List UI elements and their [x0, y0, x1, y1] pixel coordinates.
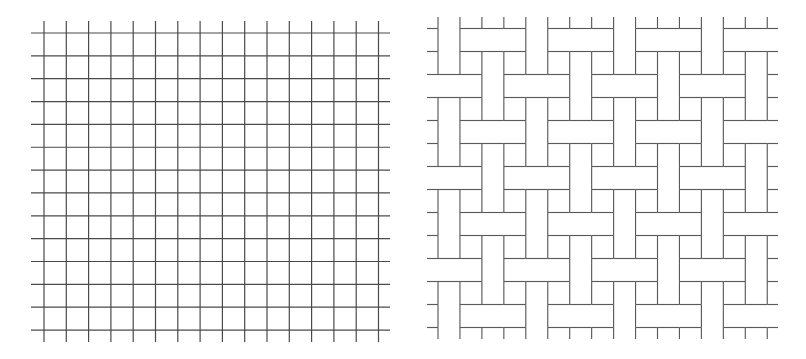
weave-comparison-figure: [0, 0, 806, 359]
figure-canvas: [0, 0, 806, 359]
basket-weave-pattern: [416, 6, 789, 351]
plain-grid-pattern: [31, 21, 390, 342]
